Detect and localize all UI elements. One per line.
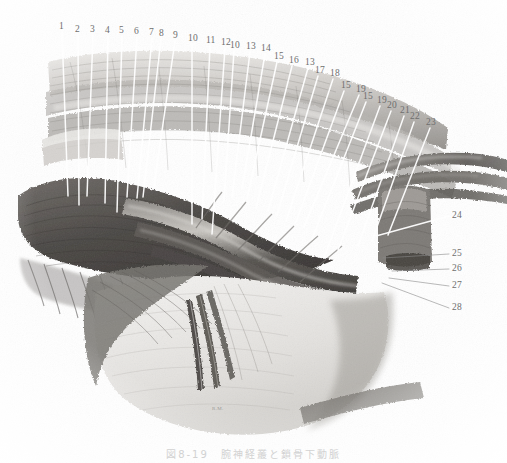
figure-label-l15c: 15 bbox=[363, 92, 373, 102]
anatomical-illustration bbox=[0, 0, 507, 463]
figure-label-l20: 20 bbox=[387, 101, 397, 111]
figure-label-l10a: 10 bbox=[188, 34, 198, 44]
figure-label-l15a: 15 bbox=[274, 52, 284, 62]
figure-label-l9: 9 bbox=[173, 31, 178, 41]
figure-label-l22: 22 bbox=[410, 112, 420, 122]
figure-label-l6: 6 bbox=[134, 27, 139, 37]
figure-label-l7: 7 bbox=[149, 28, 154, 38]
figure-label-l27: 27 bbox=[452, 281, 462, 291]
artist-signature: R.M. bbox=[212, 406, 223, 411]
figure-label-l26: 26 bbox=[452, 264, 462, 274]
figure-label-l1: 1 bbox=[59, 22, 64, 32]
figure-label-l21: 21 bbox=[400, 106, 410, 116]
figure-label-l11: 11 bbox=[206, 36, 216, 46]
figure-label-l28: 28 bbox=[452, 303, 462, 313]
figure-label-l2: 2 bbox=[75, 25, 80, 35]
figure-label-l5: 5 bbox=[119, 26, 124, 36]
figure-label-l25: 25 bbox=[452, 249, 462, 259]
figure-label-l4: 4 bbox=[105, 26, 110, 36]
figure-label-l15b: 15 bbox=[341, 81, 351, 91]
figure-label-l3: 3 bbox=[90, 25, 95, 35]
leader-line-2 bbox=[78, 35, 79, 205]
figure-label-l13b: 13 bbox=[305, 58, 315, 68]
figure-label-l24: 24 bbox=[452, 211, 462, 221]
figure-label-l8: 8 bbox=[159, 29, 164, 39]
figure-label-l23: 23 bbox=[426, 118, 436, 128]
figure-label-l17: 17 bbox=[315, 66, 325, 76]
figure-caption: 図8-19 腕神経叢と鎖骨下動脈 bbox=[0, 446, 507, 463]
figure-label-l19b: 19 bbox=[377, 96, 387, 106]
figure-label-l14: 14 bbox=[261, 44, 271, 54]
figure-label-l16: 16 bbox=[289, 56, 299, 66]
figure-plate: 1234567891011121013141516131718151915192… bbox=[0, 0, 507, 463]
figure-label-l13a: 13 bbox=[246, 42, 256, 52]
figure-label-l10b: 10 bbox=[230, 41, 240, 51]
figure-label-l18: 18 bbox=[330, 69, 340, 79]
